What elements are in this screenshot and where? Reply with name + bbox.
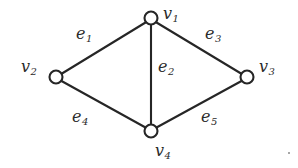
edge-label-e1: e1 bbox=[76, 26, 92, 42]
vertex-label-v2: v2 bbox=[21, 59, 36, 75]
vertex-label-v3-subscript: 3 bbox=[269, 66, 275, 77]
edge-label-e3-base: e bbox=[205, 24, 214, 43]
edge-label-e2-base: e bbox=[158, 57, 167, 76]
vertex-label-v3: v3 bbox=[259, 59, 274, 75]
edge-label-e1-base: e bbox=[76, 24, 85, 43]
edge-label-e4-subscript: 4 bbox=[82, 116, 88, 127]
vertex-label-v3-base: v bbox=[259, 57, 268, 76]
vertex-circle-v3 bbox=[241, 71, 254, 84]
graph-figure: v1 v2 v3 v4 e1 e2 e3 e4 e5 bbox=[0, 0, 298, 168]
vertex-label-v2-base: v bbox=[21, 57, 30, 76]
edge-line-e5 bbox=[157, 81, 242, 128]
vertex-label-v4-subscript: 4 bbox=[165, 150, 171, 161]
vertex-label-v1-subscript: 1 bbox=[173, 13, 179, 24]
edge-label-e2: e2 bbox=[158, 59, 174, 75]
vertex-label-v4: v4 bbox=[155, 143, 170, 159]
vertex-label-v2-subscript: 2 bbox=[31, 66, 37, 77]
vertex-label-v1-base: v bbox=[163, 4, 172, 23]
edge-label-e2-subscript: 2 bbox=[168, 66, 174, 77]
vertex-circle-v2 bbox=[50, 71, 63, 84]
vertex-label-v4-base: v bbox=[155, 141, 164, 160]
edge-label-e4: e4 bbox=[72, 109, 88, 125]
edge-label-e4-base: e bbox=[72, 107, 81, 126]
graph-canvas bbox=[0, 0, 298, 168]
edge-label-e5-base: e bbox=[201, 107, 210, 126]
vertex-circle-v4 bbox=[145, 125, 158, 138]
edge-label-e5-subscript: 5 bbox=[211, 116, 217, 127]
edge-label-e3-subscript: 3 bbox=[215, 33, 221, 44]
edge-label-e3: e3 bbox=[205, 26, 221, 42]
edge-line-e1 bbox=[62, 23, 146, 74]
edge-label-e1-subscript: 1 bbox=[86, 33, 92, 44]
vertex-label-v1: v1 bbox=[163, 6, 178, 22]
edge-label-e5: e5 bbox=[201, 109, 217, 125]
scan-speck bbox=[288, 152, 290, 154]
vertex-circle-v1 bbox=[145, 12, 158, 25]
